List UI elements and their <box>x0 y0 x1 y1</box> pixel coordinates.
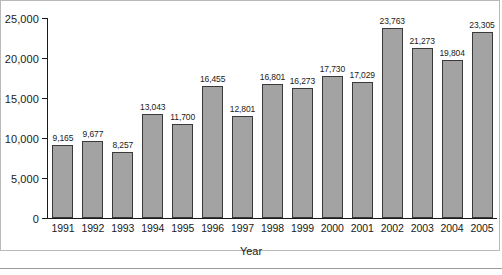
bar[interactable] <box>472 32 493 218</box>
bar-item[interactable]: 21,273 <box>412 18 433 218</box>
x-axis-tick-label: 1995 <box>168 222 198 234</box>
bar-series: 9,1659,6778,25713,04311,70016,45512,8011… <box>48 18 497 218</box>
y-axis-tick-label: 25,000 <box>5 13 39 25</box>
bar-value-label: 13,043 <box>140 102 165 112</box>
x-axis-tick-label: 1991 <box>48 222 78 234</box>
bar-value-label: 12,801 <box>230 104 255 114</box>
bar-value-label: 11,700 <box>170 112 195 122</box>
x-axis-tick-label: 1992 <box>78 222 108 234</box>
bar-item[interactable]: 11,700 <box>172 18 193 218</box>
bar-item[interactable]: 9,165 <box>52 18 73 218</box>
bar-item[interactable]: 17,730 <box>322 18 343 218</box>
bar[interactable] <box>412 48 433 218</box>
bar-item[interactable]: 17,029 <box>352 18 373 218</box>
plot-area: 05,00010,00015,00020,00025,000 9,1659,67… <box>47 18 497 218</box>
y-axis-tick-label: 5,000 <box>11 173 39 185</box>
bar-item[interactable]: 16,801 <box>262 18 283 218</box>
x-axis-tick-label: 2001 <box>347 222 377 234</box>
bar-value-label: 17,029 <box>350 70 375 80</box>
bar[interactable] <box>202 86 223 218</box>
bar-item[interactable]: 23,305 <box>472 18 493 218</box>
bar-item[interactable]: 8,257 <box>112 18 133 218</box>
x-axis-tick-label: 1999 <box>287 222 317 234</box>
bar-item[interactable]: 9,677 <box>82 18 103 218</box>
bar-value-label: 16,455 <box>200 74 225 84</box>
x-axis-tick-label: 2005 <box>467 222 497 234</box>
bar-value-label: 17,730 <box>320 64 345 74</box>
bar-value-label: 23,305 <box>469 20 494 30</box>
bar[interactable] <box>352 82 373 218</box>
y-axis-tick-mark <box>42 218 48 219</box>
bar[interactable] <box>382 28 403 218</box>
bar-value-label: 19,804 <box>439 48 464 58</box>
y-axis-tick-label: 10,000 <box>5 133 39 145</box>
bar[interactable] <box>142 114 163 218</box>
bar[interactable] <box>232 116 253 218</box>
bar-value-label: 23,763 <box>380 16 405 26</box>
bar-value-label: 9,165 <box>53 133 74 143</box>
bar-item[interactable]: 16,273 <box>292 18 313 218</box>
bar-value-label: 21,273 <box>409 36 434 46</box>
bar[interactable] <box>172 124 193 218</box>
y-axis-tick-label: 0 <box>33 213 39 225</box>
x-axis-tick-label: 1994 <box>138 222 168 234</box>
x-axis-tick-label: 2004 <box>437 222 467 234</box>
bar-item[interactable]: 13,043 <box>142 18 163 218</box>
bar[interactable] <box>52 145 73 218</box>
bar-item[interactable]: 16,455 <box>202 18 223 218</box>
x-axis-labels: 1991199219931994199519961997199819992000… <box>48 222 497 238</box>
x-axis-line <box>47 218 497 219</box>
bar-value-label: 8,257 <box>112 140 133 150</box>
bar[interactable] <box>292 88 313 218</box>
x-axis-title: Year <box>0 245 502 257</box>
x-axis-tick-label: 1993 <box>108 222 138 234</box>
x-axis-tick-label: 2003 <box>407 222 437 234</box>
bar[interactable] <box>82 141 103 218</box>
x-axis-tick-label: 2002 <box>377 222 407 234</box>
y-axis-tick-label: 20,000 <box>5 53 39 65</box>
chart-page: 05,00010,00015,00020,00025,000 9,1659,67… <box>0 0 502 275</box>
bar[interactable] <box>112 152 133 218</box>
bar-item[interactable]: 23,763 <box>382 18 403 218</box>
y-axis-tick: 0 <box>47 218 48 219</box>
bar-value-label: 16,801 <box>260 72 285 82</box>
bar[interactable] <box>442 60 463 218</box>
bottom-rule <box>0 268 502 269</box>
x-axis-tick-label: 1997 <box>228 222 258 234</box>
bar-value-label: 9,677 <box>83 129 104 139</box>
bar-item[interactable]: 19,804 <box>442 18 463 218</box>
x-axis-tick-label: 1998 <box>258 222 288 234</box>
x-axis-tick-label: 1996 <box>198 222 228 234</box>
y-axis-tick-label: 15,000 <box>5 93 39 105</box>
bar[interactable] <box>262 84 283 218</box>
bar[interactable] <box>322 76 343 218</box>
x-axis-tick-label: 2000 <box>317 222 347 234</box>
bar-item[interactable]: 12,801 <box>232 18 253 218</box>
bar-value-label: 16,273 <box>290 76 315 86</box>
